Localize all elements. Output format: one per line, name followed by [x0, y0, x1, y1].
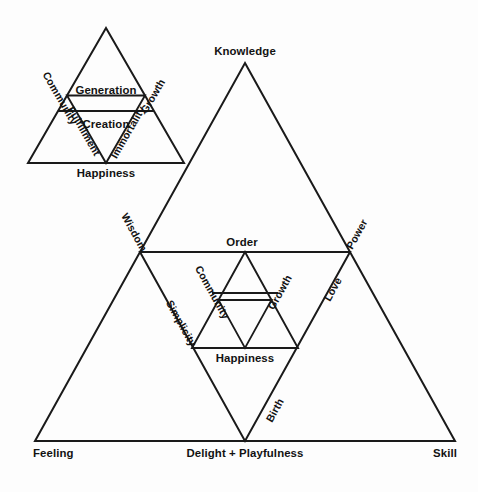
- main-label-delight-playfulness: Delight + Playfulness: [187, 447, 304, 459]
- main-label-skill: Skill: [433, 447, 457, 459]
- main-label-love: Love: [321, 275, 344, 303]
- main-label-simplicity: Simplicity: [164, 298, 199, 348]
- upper-label-fulfillment: Fulfillment: [66, 104, 104, 158]
- upper-label-generation: Generation: [75, 84, 136, 96]
- triangles-diagram: Generation Creation Happiness Community …: [0, 0, 478, 492]
- main-label-feeling: Feeling: [33, 447, 74, 459]
- upper-label-happiness: Happiness: [77, 167, 136, 179]
- main-label-wisdom: Wisdom: [119, 211, 150, 253]
- diagram-canvas: Generation Creation Happiness Community …: [0, 0, 478, 492]
- upper-left-triangle-group: Generation Creation Happiness Community …: [28, 28, 184, 179]
- main-label-growth: Growth: [265, 273, 294, 312]
- upper-label-immortality: Immortality: [108, 104, 147, 160]
- main-label-order: Order: [226, 236, 258, 248]
- main-label-knowledge: Knowledge: [214, 45, 276, 57]
- main-large-triangle-group: Knowledge Feeling Delight + Playfulness …: [33, 45, 457, 459]
- main-label-happiness: Happiness: [216, 352, 275, 364]
- main-label-power: Power: [343, 217, 369, 251]
